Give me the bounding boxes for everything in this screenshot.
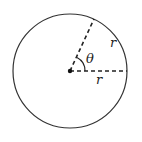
- radian-diagram: θ r r: [0, 0, 142, 142]
- theta-label: θ: [86, 51, 94, 66]
- arc-length-label: r: [110, 35, 117, 50]
- angle-arc: [77, 58, 85, 72]
- radius-label: r: [96, 72, 103, 87]
- center-point: [68, 69, 72, 73]
